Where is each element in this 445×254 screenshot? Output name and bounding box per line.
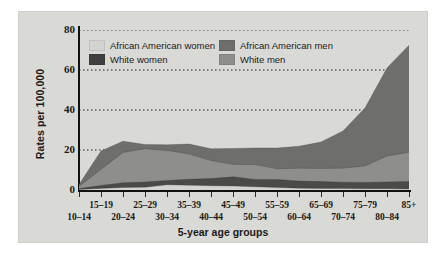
x-tick-mark	[79, 192, 80, 197]
x-tick-label: 70–74	[323, 212, 363, 222]
legend-entry: White women	[89, 54, 219, 65]
legend-label: White men	[240, 54, 285, 65]
x-tick-mark	[321, 192, 322, 197]
x-tick-mark	[277, 192, 278, 197]
x-tick-label: 20–24	[103, 212, 143, 222]
chart-figure: Rates per 100,000 020406080 10–1415–1920…	[18, 11, 428, 243]
area-series-group	[79, 45, 409, 190]
legend-label: White women	[110, 54, 168, 65]
y-tick-label: 40	[49, 103, 75, 115]
x-tick-label: 40–44	[191, 212, 231, 222]
y-tick-label: 60	[49, 63, 75, 75]
x-tick-label: 10–14	[59, 212, 99, 222]
x-tick-label: 65–69	[301, 200, 341, 210]
x-tick-mark	[365, 192, 366, 197]
x-axis-title: 5-year age groups	[19, 226, 427, 238]
x-tick-mark	[101, 192, 102, 197]
chart-legend: African American womenAfrican American m…	[89, 38, 359, 66]
x-axis-line	[78, 190, 411, 192]
x-tick-label: 60–64	[279, 212, 319, 222]
legend-label: African American women	[110, 40, 215, 51]
legend-swatch-icon	[89, 40, 105, 51]
y-tick-label: 80	[49, 23, 75, 35]
legend-swatch-icon	[219, 54, 235, 65]
x-tick-mark	[299, 192, 300, 197]
legend-label: African American men	[240, 40, 333, 51]
x-tick-mark	[387, 192, 388, 197]
x-tick-mark	[409, 192, 410, 197]
x-tick-label: 15–19	[81, 200, 121, 210]
x-tick-label: 25–29	[125, 200, 165, 210]
x-tick-mark	[211, 192, 212, 197]
x-tick-mark	[233, 192, 234, 197]
legend-entry: African American women	[89, 40, 219, 51]
y-tick-label: 20	[49, 143, 75, 155]
x-tick-label: 80–84	[367, 212, 407, 222]
x-tick-label: 55–59	[257, 200, 297, 210]
legend-swatch-icon	[89, 54, 105, 65]
x-tick-label: 35–39	[169, 200, 209, 210]
y-axis-tick-labels: 020406080	[45, 12, 75, 212]
legend-entry: African American men	[219, 40, 359, 51]
x-tick-label: 45–49	[213, 200, 253, 210]
y-tick-label: 0	[49, 183, 75, 195]
x-tick-mark	[255, 192, 256, 197]
x-tick-mark	[167, 192, 168, 197]
x-tick-label: 30–34	[147, 212, 187, 222]
x-tick-mark	[189, 192, 190, 197]
x-tick-mark	[145, 192, 146, 197]
legend-entry: White men	[219, 54, 359, 65]
x-tick-mark	[343, 192, 344, 197]
x-tick-label: 50–54	[235, 212, 275, 222]
legend-swatch-icon	[219, 40, 235, 51]
x-tick-label: 85+	[389, 200, 429, 210]
x-tick-label: 75–79	[345, 200, 385, 210]
x-tick-mark	[123, 192, 124, 197]
